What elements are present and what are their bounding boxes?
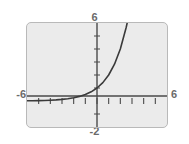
exponential-graph-figure: 6 -6 6 -2 [0,0,189,144]
x-axis-min-label: -6 [2,89,26,100]
plot-canvas [27,23,167,127]
y-axis [94,23,100,127]
plot-frame [26,22,168,128]
x-axis-max-label: 6 [171,89,189,100]
exponential-curve [27,23,127,101]
